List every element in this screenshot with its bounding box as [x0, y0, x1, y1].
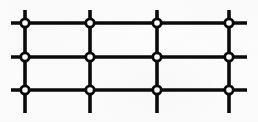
- node-r3-c3: row 3 column 3: [153, 86, 161, 94]
- node-r1-c4: row 1 column 4: [225, 19, 233, 27]
- node-r2-c4: row 2 column 4: [225, 53, 233, 61]
- node-r1-c1: row 1 column 1: [21, 19, 29, 27]
- node-r1-c2: row 1 column 2: [86, 19, 94, 27]
- node-r2-c2: row 2 column 2: [86, 53, 94, 61]
- node-r2-c1: row 2 column 1: [21, 53, 29, 61]
- node-r2-c3: row 2 column 3: [153, 53, 161, 61]
- node-r3-c2: row 3 column 2: [86, 86, 94, 94]
- vertical-lines-group: [25, 10, 229, 113]
- grid-lattice-figure: row 1 column 1row 1 column 2row 1 column…: [0, 0, 258, 122]
- node-r1-c3: row 1 column 3: [153, 19, 161, 27]
- node-r3-c4: row 3 column 4: [225, 86, 233, 94]
- lattice-drawing: row 1 column 1row 1 column 2row 1 column…: [0, 0, 258, 122]
- node-r3-c1: row 3 column 1: [21, 86, 29, 94]
- horizontal-lines-group: [11, 23, 247, 90]
